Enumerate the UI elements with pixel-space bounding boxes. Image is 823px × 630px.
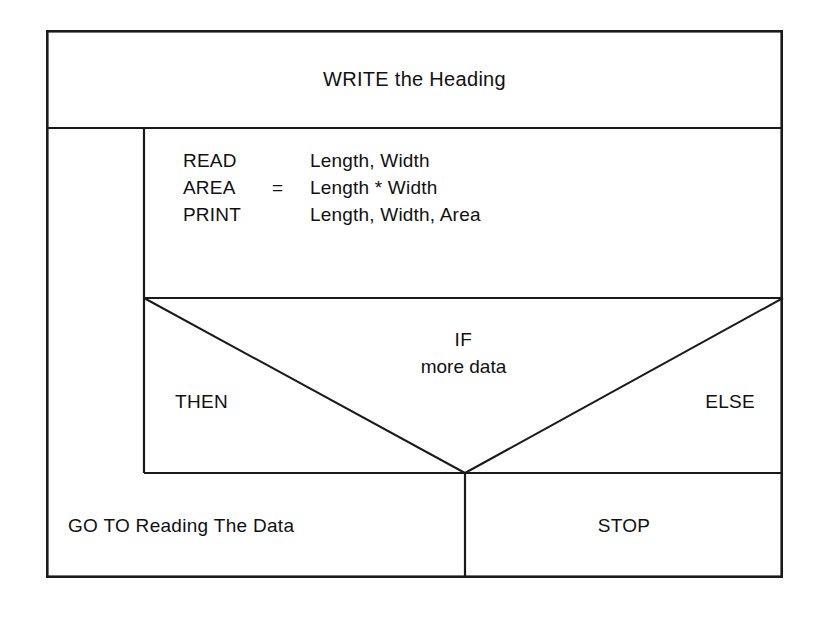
statement-row: READ Length, Width — [144, 150, 783, 177]
decision-condition-text: more data — [144, 353, 783, 380]
else-branch-cell: STOP — [465, 473, 783, 578]
statement-row: PRINT Length, Width, Area — [144, 204, 783, 231]
statement-operand: Length, Width — [310, 150, 783, 172]
statement-row: AREA = Length * Width — [144, 177, 783, 204]
statement-operand: Length * Width — [310, 177, 783, 199]
heading-block-label: WRITE the Heading — [323, 69, 506, 89]
process-block: READ Length, Width AREA = Length * Width… — [144, 128, 783, 298]
statement-keyword: AREA — [183, 177, 272, 199]
structogram-canvas: WRITE the Heading READ Length, Width ARE… — [0, 0, 823, 630]
else-branch-label: STOP — [598, 515, 651, 537]
then-branch-cell: GO TO Reading The Data — [46, 473, 465, 578]
decision-condition: IF more data — [144, 326, 783, 380]
decision-diagonal-left — [144, 298, 465, 473]
decision-diagonal-right — [465, 298, 783, 473]
statement-operand: Length, Width, Area — [310, 204, 783, 226]
then-branch-label: GO TO Reading The Data — [68, 515, 294, 537]
statement-keyword: PRINT — [183, 204, 272, 226]
decision-condition-keyword: IF — [144, 326, 783, 353]
nassi-shneiderman-structogram: WRITE the Heading READ Length, Width ARE… — [46, 30, 783, 578]
heading-block: WRITE the Heading — [46, 30, 783, 128]
else-label: ELSE — [46, 392, 755, 411]
statement-operator: = — [272, 177, 310, 199]
statement-keyword: READ — [183, 150, 272, 172]
